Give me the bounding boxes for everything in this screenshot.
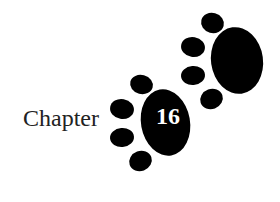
upper-paw-toe-3: [180, 65, 206, 86]
upper-paw-toe-4: [197, 86, 225, 113]
chapter-number: 16: [145, 103, 191, 130]
upper-paw-pad: [207, 24, 268, 98]
lower-paw-toe-4: [126, 148, 154, 175]
lower-paw-toe-2: [108, 97, 135, 121]
lower-paw-toe-3: [109, 127, 135, 148]
upper-paw-toe-2: [179, 35, 206, 59]
chapter-label: Chapter: [23, 105, 99, 132]
